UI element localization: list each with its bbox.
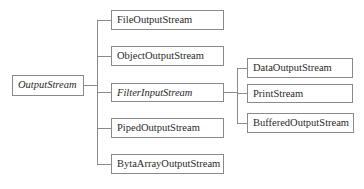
branch-filter <box>97 92 112 93</box>
node-pipedoutputstream: PipedOutputStream <box>111 118 224 138</box>
spine-filter <box>237 68 238 124</box>
node-bufferedoutputstream: BufferedOutputStream <box>247 113 354 133</box>
node-objectoutputstream: ObjectOutputStream <box>111 46 224 66</box>
branch-piped <box>97 128 112 129</box>
node-dataoutputstream: DataOutputStream <box>247 58 353 78</box>
node-bytaarrayoutputstream: BytaArrayOutputStream <box>111 154 224 174</box>
connector-root <box>84 85 98 86</box>
node-outputstream: OutputStream <box>12 75 84 96</box>
connector-filter <box>224 92 237 93</box>
branch-object <box>97 56 112 57</box>
node-printstream: PrintStream <box>247 84 353 103</box>
node-filterinputstream: FilterInputStream <box>111 83 224 102</box>
branch-file <box>97 20 112 21</box>
branch-byta <box>97 164 112 165</box>
node-fileoutputstream: FileOutputStream <box>111 10 224 30</box>
